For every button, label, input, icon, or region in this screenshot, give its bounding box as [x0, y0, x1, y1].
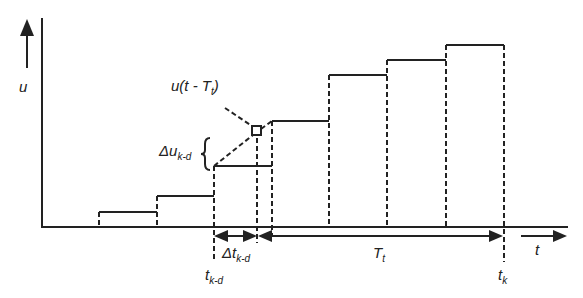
delta-t-label: Δtk-d — [222, 244, 250, 264]
t-k-label: tk — [498, 266, 507, 286]
delayed-point-label: u(t - Tt) — [171, 77, 219, 97]
brace-icon — [201, 138, 210, 170]
t-k-d-label: tk-d — [205, 266, 223, 286]
y-axis-label: u — [19, 78, 27, 95]
delta-u-label: Δuk-d — [159, 142, 191, 162]
dead-time-label: Tt — [373, 244, 385, 264]
delayed-point-marker — [252, 126, 261, 135]
x-axis-label: t — [535, 241, 539, 258]
step-diagram — [0, 0, 583, 298]
